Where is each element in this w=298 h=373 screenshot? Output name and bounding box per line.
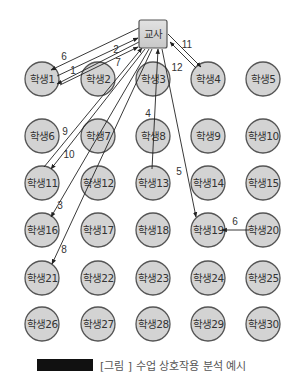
student-node: 학생10: [246, 119, 280, 153]
edge-order-label: 11: [182, 39, 193, 50]
student-node: 학생27: [81, 307, 115, 341]
student-node: 학생18: [136, 213, 170, 247]
student-label: 학생17: [83, 224, 114, 236]
student-node: 학생26: [25, 307, 59, 341]
student-label: 학생6: [30, 130, 56, 142]
edge-order-label: 6: [61, 51, 67, 62]
student-label: 학생12: [83, 177, 114, 189]
student-label: 학생4: [196, 73, 222, 85]
edge-order-label: 3: [57, 200, 63, 211]
edge-order-label: 9: [62, 126, 68, 137]
student-node: 학생16: [25, 213, 59, 247]
student-label: 학생1: [30, 73, 55, 85]
student-label: 학생26: [27, 318, 59, 330]
student-label: 학생27: [83, 318, 114, 330]
student-node: 학생11: [25, 166, 59, 200]
student-node: 학생12: [81, 166, 115, 200]
student-label: 학생20: [248, 224, 279, 236]
student-node: 학생2: [81, 62, 115, 96]
caption-label-box: [37, 359, 93, 371]
student-node: 학생15: [246, 166, 280, 200]
student-label: 학생18: [138, 224, 169, 236]
student-label: 학생15: [248, 177, 279, 189]
edge-order-label: 1: [70, 65, 76, 76]
edge-order-label: 7: [115, 57, 121, 68]
student-node: 학생21: [25, 261, 59, 295]
edge-order-label: 5: [176, 166, 182, 177]
student-nodes: 학생1학생2학생3학생4학생5학생6학생7학생8학생9학생10학생11학생12학…: [25, 62, 280, 341]
teacher-label: 교사: [144, 28, 163, 40]
student-label: 학생3: [141, 73, 166, 85]
student-label: 학생24: [193, 272, 225, 284]
student-node: 학생28: [136, 307, 170, 341]
student-label: 학생14: [193, 177, 225, 189]
student-node: 학생13: [136, 166, 170, 200]
edge-order-label: 6: [232, 216, 238, 227]
student-node: 학생23: [136, 261, 170, 295]
student-label: 학생28: [138, 318, 169, 330]
student-node: 학생17: [81, 213, 115, 247]
student-label: 학생19: [193, 224, 224, 236]
student-label: 학생10: [248, 130, 279, 142]
edge-order-label: 12: [171, 62, 183, 73]
student-node: 학생19: [191, 213, 225, 247]
student-node: 학생20: [246, 213, 280, 247]
student-node: 학생14: [191, 166, 225, 200]
edge-order-label: 8: [61, 244, 67, 255]
student-node: 학생3: [136, 62, 170, 96]
student-label: 학생11: [27, 177, 58, 189]
student-label: 학생2: [86, 73, 111, 85]
student-label: 학생22: [83, 272, 114, 284]
student-label: 학생9: [196, 130, 221, 142]
student-label: 학생13: [138, 177, 169, 189]
interaction-edge: 6: [222, 216, 249, 231]
edge-order-label: 4: [145, 108, 151, 119]
student-label: 학생30: [248, 318, 279, 330]
student-label: 학생21: [27, 272, 58, 284]
student-node: 학생22: [81, 261, 115, 295]
student-node: 학생30: [246, 307, 280, 341]
student-label: 학생16: [27, 224, 59, 236]
student-label: 학생23: [138, 272, 169, 284]
student-label: 학생29: [193, 318, 224, 330]
edge-order-label: 10: [63, 149, 75, 160]
student-label: 학생25: [248, 272, 279, 284]
student-node: 학생4: [191, 62, 225, 96]
student-label: 학생5: [251, 73, 276, 85]
student-node: 학생25: [246, 261, 280, 295]
student-node: 학생1: [25, 62, 59, 96]
student-node: 학생5: [246, 62, 280, 96]
student-node: 학생29: [191, 307, 225, 341]
student-node: 학생9: [191, 119, 225, 153]
student-node: 학생6: [25, 119, 59, 153]
student-node: 학생24: [191, 261, 225, 295]
teacher-node: 교사: [139, 20, 167, 48]
caption-text: [그림 ] 수업 상호작용 분석 예시: [100, 357, 246, 373]
